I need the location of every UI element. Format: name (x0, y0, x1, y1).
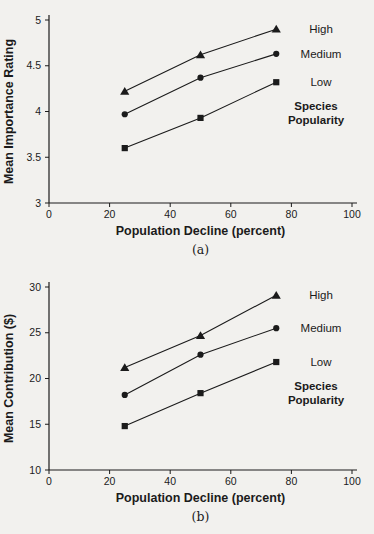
y-tick-label: 20 (29, 372, 41, 384)
x-tick-label: 60 (225, 475, 237, 487)
series-line-high (125, 29, 277, 91)
series-low-marker-square (273, 359, 279, 365)
series-low-marker-square (197, 115, 203, 121)
series-high-marker-triangle (272, 291, 281, 299)
series-low-marker-square (273, 79, 279, 85)
x-axis-title: Population Decline (percent) (116, 224, 285, 238)
y-tick-label: 4.5 (26, 59, 41, 71)
series-medium-marker-circle (197, 75, 203, 81)
x-tick-label: 80 (286, 475, 298, 487)
series-high-marker-triangle (272, 25, 281, 33)
x-axis-title: Population Decline (percent) (116, 491, 285, 505)
series-high-marker-triangle (196, 331, 205, 339)
series-medium-marker-circle (273, 325, 279, 331)
series-low-marker-square (122, 145, 128, 151)
x-tick-label: 100 (343, 208, 361, 220)
series-label-low: Low (310, 356, 332, 368)
y-tick-label: 15 (29, 418, 41, 430)
x-tick-label: 0 (46, 475, 52, 487)
y-tick-label: 4 (35, 105, 41, 117)
y-tick-label: 3 (35, 197, 41, 209)
y-tick-label: 30 (29, 281, 41, 293)
y-axis-title: Mean Contribution ($) (2, 314, 16, 443)
figure-label: (a) (192, 242, 209, 257)
y-tick-label: 5 (35, 14, 41, 26)
chart-a-importance-rating: 02040608010033.544.55HighMediumLowSpecie… (0, 0, 374, 267)
x-tick-label: 40 (164, 208, 176, 220)
figure-page: 02040608010033.544.55HighMediumLowSpecie… (0, 0, 374, 534)
legend-title-line-2: Popularity (288, 114, 345, 126)
series-medium-marker-circle (273, 51, 279, 57)
legend-title-line-2: Popularity (288, 394, 345, 406)
figure-label: (b) (192, 509, 210, 524)
chart-a-canvas: 02040608010033.544.55HighMediumLowSpecie… (0, 0, 374, 267)
series-label-medium: Medium (301, 48, 342, 60)
series-high-marker-triangle (120, 363, 129, 371)
chart-b-contribution: 0204060801001015202530HighMediumLowSpeci… (0, 267, 374, 534)
series-label-medium: Medium (301, 322, 342, 334)
series-medium-marker-circle (122, 111, 128, 117)
series-label-high: High (309, 289, 333, 301)
x-tick-label: 60 (225, 208, 237, 220)
x-tick-label: 20 (104, 475, 116, 487)
legend-title-line-1: Species (294, 380, 337, 392)
x-tick-label: 20 (104, 208, 116, 220)
y-axis-title: Mean Importance Rating (2, 39, 16, 184)
series-low-marker-square (197, 390, 203, 396)
series-label-high: High (309, 23, 333, 35)
series-line-medium (125, 54, 277, 114)
series-low-marker-square (122, 423, 128, 429)
x-tick-label: 40 (164, 475, 176, 487)
series-medium-marker-circle (122, 392, 128, 398)
x-tick-label: 100 (343, 475, 361, 487)
series-label-low: Low (310, 76, 332, 88)
series-high-marker-triangle (196, 50, 205, 58)
x-tick-label: 0 (46, 208, 52, 220)
series-medium-marker-circle (197, 352, 203, 358)
legend-title-line-1: Species (294, 100, 337, 112)
chart-b-canvas: 0204060801001015202530HighMediumLowSpeci… (0, 267, 374, 534)
y-tick-label: 3.5 (26, 151, 41, 163)
x-tick-label: 80 (286, 208, 298, 220)
series-high-marker-triangle (120, 87, 129, 95)
y-tick-label: 25 (29, 326, 41, 338)
y-tick-label: 10 (29, 464, 41, 476)
